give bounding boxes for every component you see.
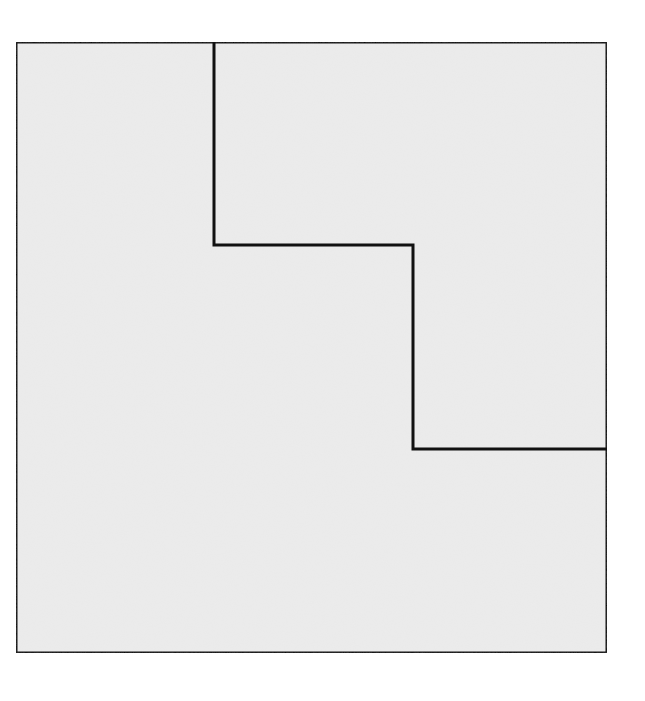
staircase-square-diagram <box>0 0 645 701</box>
outer-square <box>16 42 607 653</box>
diagram-canvas <box>0 0 645 701</box>
